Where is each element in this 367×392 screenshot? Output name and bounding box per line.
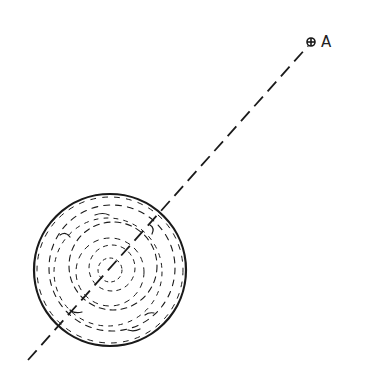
sphere-texture-ring-2 [49, 205, 175, 331]
sphere-outline [34, 194, 186, 346]
point-label: A [321, 33, 331, 51]
diagram-canvas: A [0, 0, 367, 392]
sphere-texture-ring-1 [37, 197, 183, 343]
point-a-marker [307, 38, 315, 46]
sphere [34, 194, 186, 346]
axis-dashed-line [28, 46, 308, 360]
diagram-svg [0, 0, 367, 392]
